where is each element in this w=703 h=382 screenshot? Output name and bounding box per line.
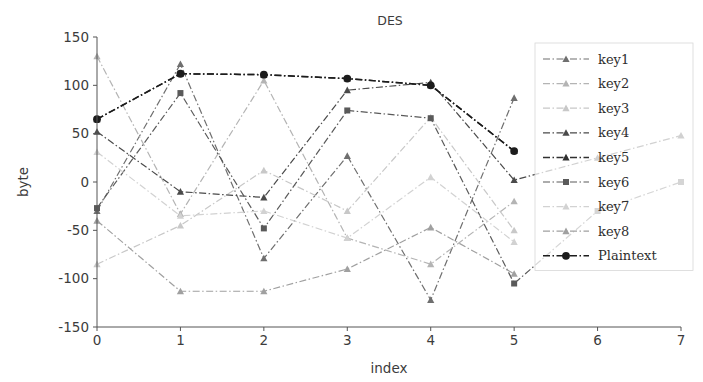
series-line xyxy=(97,56,514,264)
x-tick-label: 2 xyxy=(260,332,269,348)
series-key5 xyxy=(93,70,517,154)
legend-label: Plaintext xyxy=(598,248,657,263)
series-key2 xyxy=(93,53,517,267)
x-tick-label: 7 xyxy=(677,332,686,348)
x-tick-label: 4 xyxy=(426,332,435,348)
y-tick-label: 100 xyxy=(63,77,89,93)
legend-label: key7 xyxy=(598,199,629,214)
series-key7 xyxy=(93,148,517,245)
x-tick-label: 0 xyxy=(93,332,102,348)
series-marker xyxy=(261,225,267,231)
series-marker xyxy=(511,270,518,277)
series-key8 xyxy=(93,217,517,294)
legend-label: key8 xyxy=(598,224,629,239)
series-marker xyxy=(177,222,184,229)
series-marker xyxy=(511,238,518,245)
series-marker xyxy=(428,115,434,121)
series-marker xyxy=(427,81,435,89)
series-plaintext xyxy=(93,70,518,155)
chart-figure: -150-100-5005010015001234567 key1key2key… xyxy=(0,0,703,382)
chart-title: DES xyxy=(377,13,403,28)
series-line xyxy=(97,152,514,242)
series-marker xyxy=(511,94,518,101)
chart-canvas: -150-100-5005010015001234567 key1key2key… xyxy=(0,0,703,382)
series-marker xyxy=(427,296,434,303)
series-line xyxy=(97,221,514,292)
series-key1 xyxy=(93,60,517,302)
y-tick-label: -50 xyxy=(67,222,89,238)
legend-label: key6 xyxy=(598,175,629,190)
series-marker xyxy=(344,152,351,159)
series-marker xyxy=(177,90,183,96)
x-tick-label: 6 xyxy=(593,332,602,348)
series-marker xyxy=(427,174,434,181)
series-marker xyxy=(344,107,350,113)
series-marker xyxy=(511,281,517,287)
legend-label: key2 xyxy=(598,76,629,91)
y-tick-label: 0 xyxy=(80,174,89,190)
y-tick-label: -150 xyxy=(58,319,89,335)
legend-label: key5 xyxy=(598,150,629,165)
legend-layer: key1key2key3key4key5key6key7key8Plaintex… xyxy=(535,43,693,270)
series-marker xyxy=(260,71,268,79)
x-tick-label: 5 xyxy=(510,332,519,348)
series-marker xyxy=(177,70,185,78)
legend-label: key1 xyxy=(598,52,629,67)
x-tick-label: 1 xyxy=(176,332,185,348)
series-line xyxy=(97,74,514,151)
series-marker xyxy=(563,179,569,185)
series-marker xyxy=(427,224,434,231)
series-marker xyxy=(177,60,184,67)
series-marker xyxy=(343,75,351,83)
x-tick-label: 3 xyxy=(343,332,352,348)
legend-label: key4 xyxy=(598,125,629,140)
series-line xyxy=(97,64,514,300)
series-marker xyxy=(510,147,518,155)
series-marker xyxy=(511,198,518,205)
series-marker xyxy=(511,227,518,234)
y-tick-label: 50 xyxy=(72,125,89,141)
y-tick-label: 150 xyxy=(63,29,89,45)
x-axis-title: index xyxy=(371,360,408,376)
legend-label: key3 xyxy=(598,101,629,116)
series-marker xyxy=(562,252,570,260)
series-marker xyxy=(260,167,267,174)
series-line xyxy=(97,117,514,264)
y-axis-title: byte xyxy=(15,167,31,197)
y-tick-label: -100 xyxy=(58,270,89,286)
series-marker xyxy=(344,265,351,272)
